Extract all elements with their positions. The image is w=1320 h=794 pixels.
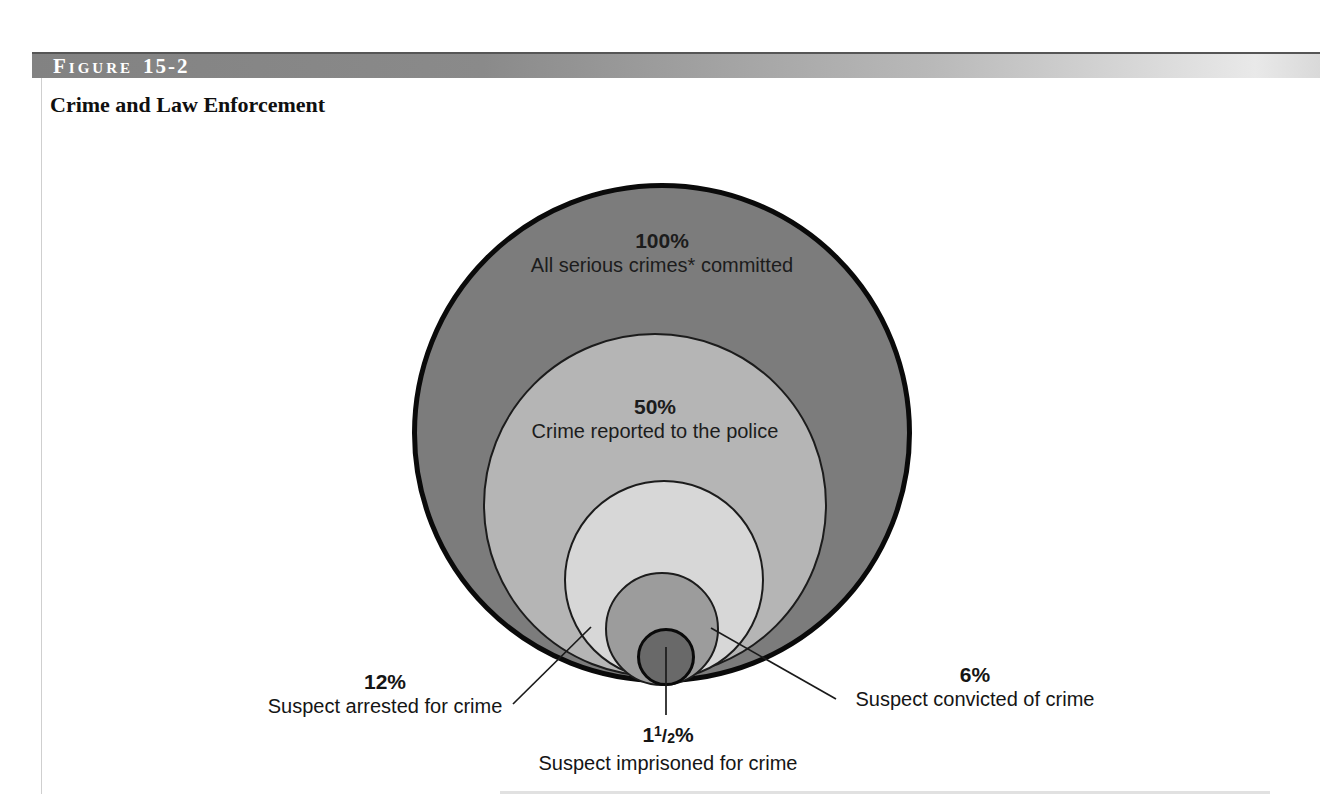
figure-page: Figure15-2 Crime and Law Enforcement 100… <box>0 0 1320 794</box>
frac-int: 1 <box>642 723 654 746</box>
frac-suffix: % <box>675 723 694 746</box>
label-6pct-value: 6% <box>825 662 1125 687</box>
label-1-5pct: 11/2% Suspect imprisoned for crime <box>518 719 818 776</box>
leader-line-convicted <box>711 628 836 699</box>
label-1-5pct-text: Suspect imprisoned for crime <box>518 751 818 776</box>
frac-numerator: 1 <box>654 723 662 739</box>
frac-denominator: 2 <box>667 730 675 746</box>
label-12pct: 12% Suspect arrested for crime <box>235 669 535 719</box>
label-12pct-text: Suspect arrested for crime <box>235 694 535 719</box>
label-1-5pct-value: 11/2% <box>518 719 818 751</box>
label-6pct: 6% Suspect convicted of crime <box>825 662 1125 712</box>
label-12pct-value: 12% <box>235 669 535 694</box>
label-6pct-text: Suspect convicted of crime <box>825 687 1125 712</box>
